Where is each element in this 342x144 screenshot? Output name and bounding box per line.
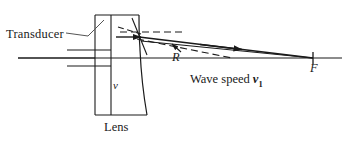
transducer-leader-line <box>66 20 104 36</box>
lens-speed-label: v <box>113 80 118 91</box>
lens-label: Lens <box>104 121 128 134</box>
focal-point-label: F <box>310 62 318 75</box>
transducer-label: Transducer <box>6 28 64 41</box>
wave-speed-text: Wave speed <box>190 72 250 86</box>
lens-concave-surface <box>139 15 147 115</box>
radius-label: R <box>172 51 180 64</box>
wave-speed-subscript: 1 <box>258 79 262 89</box>
refracted-ray-secondary <box>141 41 313 58</box>
wave-speed-label: Wave speed v1 <box>190 73 263 88</box>
diagram-canvas: Transducer Lens v R F Wave speed v1 <box>0 0 342 144</box>
ray-diagram-svg <box>0 0 342 144</box>
